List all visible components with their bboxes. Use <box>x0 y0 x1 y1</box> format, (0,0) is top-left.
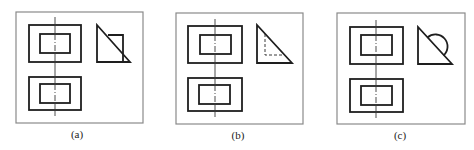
three-view-figure: (a) (b) (c) <box>0 0 474 150</box>
panel-c-front-outer-rect <box>350 27 403 64</box>
panel-a-caption: (a) <box>71 128 83 140</box>
panel-a-triangle <box>97 25 130 62</box>
panel-c <box>337 13 465 124</box>
panel-b-front-inner-rect <box>200 35 231 54</box>
panel-c-top-outer-rect <box>350 79 403 112</box>
panel-b-top-inner-rect <box>199 85 230 104</box>
panel-c-side-view <box>418 27 452 64</box>
panel-b-triangle <box>257 25 292 63</box>
panel-a-frame <box>16 12 143 123</box>
panel-c-frame <box>337 13 465 124</box>
panel-c-caption: (c) <box>394 129 406 141</box>
panel-b-caption: (b) <box>232 129 245 141</box>
panel-c-front-inner-rect <box>361 35 392 55</box>
panel-a <box>16 12 143 123</box>
panel-a-side-view <box>97 25 130 62</box>
panel-b-frame <box>176 13 303 124</box>
panel-b <box>176 13 303 124</box>
panel-b-side-view <box>257 25 292 63</box>
panel-c-top-inner-rect <box>361 86 392 105</box>
panel-c-semicircle <box>428 34 448 55</box>
